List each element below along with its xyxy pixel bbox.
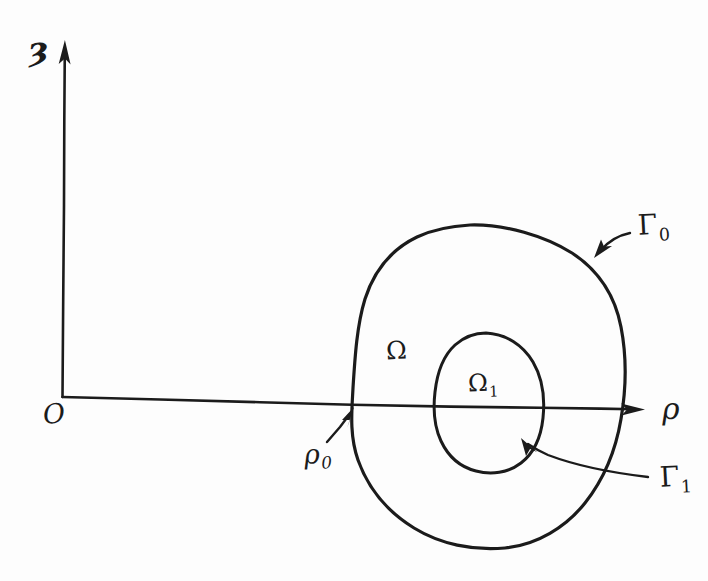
point-rho-0-base: ρ: [303, 438, 321, 470]
sketch-drawing: [0, 0, 708, 581]
region-omega-label: Ω: [385, 337, 407, 363]
point-rho-0-label: ρ0: [303, 439, 333, 473]
z-axis-label: ȝ: [27, 31, 49, 65]
gamma-1-leader-line: [528, 444, 648, 477]
rho-axis-line: [63, 397, 635, 409]
region-omega-1-base: Ω: [467, 369, 488, 398]
boundary-gamma-0-label: Γ0: [637, 210, 670, 245]
figure-canvas: ȝ O ρ Ω Ω1 Γ0 Γ1 ρ0: [0, 0, 708, 581]
point-rho-0-subscript: 0: [320, 452, 333, 473]
boundary-gamma-0-subscript: 0: [657, 224, 670, 245]
rho-axis-label: ρ: [661, 394, 680, 425]
region-omega-1-label: Ω1: [468, 370, 499, 400]
origin-label: O: [42, 399, 66, 428]
z-axis-line: [63, 52, 65, 397]
boundary-gamma-1-subscript: 1: [679, 476, 692, 497]
boundary-gamma-1-base: Γ: [659, 460, 680, 494]
boundary-gamma-1-label: Γ1: [659, 462, 692, 497]
boundary-gamma-0-base: Γ: [637, 208, 658, 242]
region-omega-1-subscript: 1: [488, 382, 499, 400]
